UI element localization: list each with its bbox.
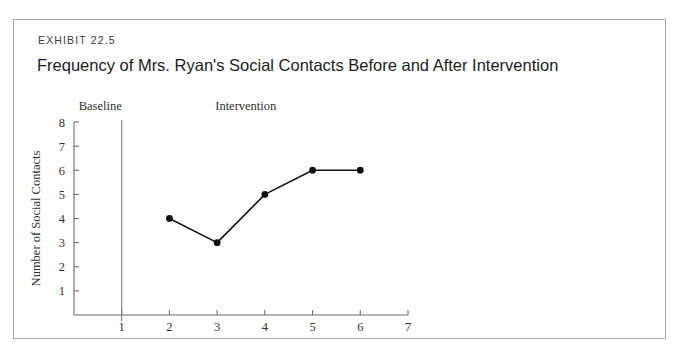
y-tick-label: 2 bbox=[59, 260, 65, 274]
line-chart-svg: 123456781234567BaselineInterventionWeeks… bbox=[14, 78, 665, 338]
y-tick-label: 3 bbox=[59, 236, 65, 250]
x-tick-label: 5 bbox=[309, 320, 315, 334]
exhibit-number-label: EXHIBIT 22.5 bbox=[38, 34, 116, 46]
y-tick-label: 4 bbox=[59, 212, 66, 226]
chart-figure: 123456781234567BaselineInterventionWeeks… bbox=[14, 78, 665, 338]
exhibit-title: Frequency of Mrs. Ryan's Social Contacts… bbox=[37, 56, 558, 75]
y-tick-label: 6 bbox=[59, 164, 65, 178]
y-tick-label: 1 bbox=[59, 284, 65, 298]
x-tick-label: 1 bbox=[119, 320, 125, 334]
data-point bbox=[357, 167, 364, 174]
data-point bbox=[166, 215, 173, 222]
y-tick-label: 8 bbox=[59, 116, 65, 130]
x-tick-label: 7 bbox=[405, 320, 411, 334]
y-axis-title: Number of Social Contacts bbox=[29, 151, 43, 287]
x-tick-label: 2 bbox=[166, 320, 172, 334]
data-line-social-contacts bbox=[169, 170, 360, 242]
data-point bbox=[214, 239, 221, 246]
phase-label-baseline: Baseline bbox=[79, 99, 122, 113]
y-tick-label: 7 bbox=[59, 140, 65, 154]
x-tick-label: 4 bbox=[262, 320, 269, 334]
data-point bbox=[261, 191, 268, 198]
data-point bbox=[309, 167, 316, 174]
y-tick-label: 5 bbox=[59, 188, 65, 202]
scan-top-sliver: · · · · · · · · · · · · · · · · · bbox=[0, 0, 679, 8]
x-tick-label: 6 bbox=[357, 320, 363, 334]
exhibit-container: EXHIBIT 22.5 Frequency of Mrs. Ryan's So… bbox=[13, 19, 666, 339]
phase-label-intervention: Intervention bbox=[215, 99, 277, 113]
x-tick-label: 3 bbox=[214, 320, 220, 334]
